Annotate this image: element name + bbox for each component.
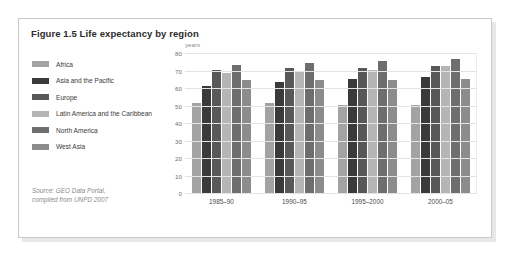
bar-groups	[185, 54, 477, 194]
source-line-2: compiled from UNPD 2007	[32, 196, 172, 205]
bar	[378, 61, 387, 194]
y-axis-title: years	[185, 41, 200, 48]
x-axis-tick-label: 1990–95	[263, 198, 327, 205]
x-axis-labels: 1985–901990–951995–20002000–05	[185, 198, 477, 205]
bar	[461, 79, 470, 195]
y-axis-tick-label: 30	[175, 137, 182, 144]
bar	[265, 103, 274, 194]
gridline: 40	[185, 123, 477, 124]
y-axis-tick-label: 40	[175, 120, 182, 127]
gridline: 80	[185, 53, 477, 54]
y-axis-tick-label: 0	[179, 190, 182, 197]
gridline: 20	[185, 158, 477, 159]
x-axis-tick-label: 1985–90	[190, 198, 254, 205]
legend-swatch-icon	[32, 127, 49, 133]
y-axis-tick-label: 60	[175, 85, 182, 92]
legend-item: West Asia	[32, 140, 172, 154]
x-axis-tick-label: 1995–2000	[336, 198, 400, 205]
source-note: Source: GEO Data Portal, compiled from U…	[32, 187, 172, 204]
legend-label: Latin America and the Caribbean	[56, 110, 152, 117]
legend-swatch-icon	[32, 111, 49, 117]
bar	[338, 105, 347, 194]
y-axis-tick-label: 70	[175, 67, 182, 74]
figure-card: Figure 1.5 Life expectancy by region Afr…	[18, 18, 492, 238]
bar	[451, 59, 460, 194]
legend-label: Europe	[56, 94, 77, 101]
legend-swatch-icon	[32, 144, 49, 150]
gridline: 0	[185, 193, 477, 194]
legend-item: North America	[32, 123, 172, 137]
y-axis-tick-label: 20	[175, 155, 182, 162]
legend-label: Asia and the Pacific	[56, 77, 114, 84]
bar	[242, 80, 251, 194]
source-line-1: Source: GEO Data Portal,	[32, 187, 172, 196]
legend-label: Africa	[56, 61, 73, 68]
bar	[192, 103, 201, 194]
legend-item: Asia and the Pacific	[32, 74, 172, 88]
figure-page: Figure 1.5 Life expectancy by region Afr…	[0, 0, 516, 262]
legend-swatch-icon	[32, 78, 49, 84]
bar	[411, 105, 420, 194]
legend-label: West Asia	[56, 143, 85, 150]
bar-group	[338, 54, 397, 194]
gridline: 30	[185, 141, 477, 142]
bar	[315, 80, 324, 194]
x-axis-tick-label: 2000–05	[409, 198, 473, 205]
y-axis-tick-label: 80	[175, 50, 182, 57]
bar	[348, 79, 357, 195]
bar	[388, 80, 397, 194]
legend-item: Latin America and the Caribbean	[32, 107, 172, 121]
y-axis-tick-label: 10	[175, 172, 182, 179]
y-axis-tick-label: 50	[175, 102, 182, 109]
gridline: 10	[185, 176, 477, 177]
legend-swatch-icon	[32, 94, 49, 100]
gridline: 60	[185, 88, 477, 89]
legend-label: North America	[56, 127, 98, 134]
bar	[275, 82, 284, 194]
legend-swatch-icon	[32, 61, 49, 67]
legend-item: Africa	[32, 57, 172, 71]
bar-group	[411, 54, 470, 194]
bar-group	[192, 54, 251, 194]
gridline: 50	[185, 106, 477, 107]
bar-group	[265, 54, 324, 194]
figure-title: Figure 1.5 Life expectancy by region	[31, 28, 199, 39]
chart-legend: AfricaAsia and the PacificEuropeLatin Am…	[32, 57, 172, 156]
plot-axes: 01020304050607080	[185, 54, 477, 194]
bar	[305, 63, 314, 194]
chart-plot-area: years 01020304050607080 1985–901990–9519…	[171, 41, 481, 221]
legend-item: Europe	[32, 90, 172, 104]
gridline: 70	[185, 71, 477, 72]
